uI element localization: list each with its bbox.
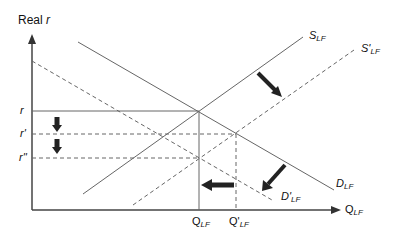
demand-shifted-label-main: D' xyxy=(281,190,291,202)
y-axis-label: Real r xyxy=(18,14,50,26)
tick-q-sub: LF xyxy=(201,220,210,229)
tick-r-double-prime: r'' xyxy=(19,152,27,163)
x-axis-label-main: Q xyxy=(345,203,354,215)
y-axis-arrowhead-icon xyxy=(28,34,36,44)
tick-r: r xyxy=(20,105,24,116)
tick-q-main: Q xyxy=(192,215,201,227)
tick-q-prime: Q'LF xyxy=(229,216,249,227)
x-axis-arrowhead-icon xyxy=(331,206,341,214)
tick-q: QLF xyxy=(192,216,210,227)
rate-drop-arrow-2-icon xyxy=(52,139,62,154)
tick-q-prime-sub: LF xyxy=(240,220,249,229)
supply-label-sub: LF xyxy=(316,34,325,43)
supply-shifted-label-sub: LF xyxy=(370,47,379,56)
demand-label-main: D xyxy=(336,177,344,189)
demand-shifted-label-sub: LF xyxy=(291,195,300,204)
y-axis-label-var: r xyxy=(46,13,50,27)
demand-shifted-curve-label: D'LF xyxy=(281,191,300,202)
supply-curve-shifted xyxy=(133,50,354,205)
quantity-shift-arrow-icon xyxy=(201,179,234,191)
y-axis-label-prefix: Real xyxy=(18,13,46,27)
loanable-funds-diagram xyxy=(0,0,399,235)
demand-label-sub: LF xyxy=(344,182,353,191)
demand-shift-arrow-icon xyxy=(262,165,285,191)
supply-shifted-curve-label: S'LF xyxy=(361,43,380,54)
demand-curve xyxy=(78,42,334,190)
demand-curve-label: DLF xyxy=(336,178,353,189)
supply-shift-arrow-icon xyxy=(258,73,282,97)
x-axis-label: QLF xyxy=(345,204,363,215)
x-axis-label-sub: LF xyxy=(354,208,363,217)
supply-curve xyxy=(83,37,303,194)
supply-curve-label: SLF xyxy=(309,30,326,41)
tick-q-prime-main: Q' xyxy=(229,215,240,227)
tick-r-prime: r' xyxy=(20,128,26,139)
rate-drop-arrow-1-icon xyxy=(52,117,62,132)
